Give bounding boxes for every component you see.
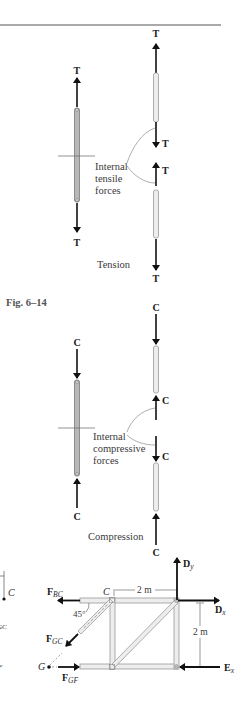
tension-title: Tension xyxy=(97,259,131,270)
left-fragment-sub-gc: GC xyxy=(0,623,7,631)
node-c-label: C xyxy=(103,586,110,597)
angle-arc xyxy=(86,603,89,612)
force-d-x-label: Dx xyxy=(215,604,226,617)
tension-leader-lower xyxy=(127,166,155,183)
height-dim-label: 2 m xyxy=(193,627,208,637)
left-fragment-node-c: C xyxy=(8,587,15,598)
compression-title: Compression xyxy=(88,531,144,542)
tension-label-t4: T xyxy=(153,273,160,284)
tension-label-t1: T xyxy=(153,28,160,39)
compression-internal-line3: forces xyxy=(93,455,119,466)
force-d-y-label: Dy xyxy=(183,558,194,571)
compression-internal-line1: Internal xyxy=(93,431,126,442)
compression-segment-upper: C C xyxy=(153,302,170,420)
compression-whole-member: C C xyxy=(58,337,95,522)
compression-leader-upper xyxy=(127,408,155,432)
member-diagonal xyxy=(112,600,178,667)
compression-diagram: C C C C C C Internal compressive for xyxy=(58,302,169,558)
point-g xyxy=(47,665,51,669)
height-dimension: 2 m xyxy=(193,603,208,666)
left-fragment: C GC F xyxy=(0,571,15,671)
force-f-gc-arrow xyxy=(66,634,78,646)
compression-label-top: C xyxy=(74,337,81,348)
figure-canvas: T T T T T T Internal tensile forc xyxy=(0,0,246,720)
tension-label-t2: T xyxy=(162,138,169,149)
force-f-gf-label: FGF xyxy=(62,672,79,685)
member-bottom-left xyxy=(80,664,113,669)
compression-segment-lower: C C xyxy=(153,436,170,558)
member-vertical-c xyxy=(110,598,115,669)
force-e-x-label: Ex xyxy=(224,662,235,675)
member-bottom xyxy=(112,664,178,669)
force-f-bc-label: FBC xyxy=(47,586,64,599)
tension-internal-line2: tensile xyxy=(95,173,123,184)
member-top xyxy=(112,598,178,603)
compression-label-bottom: C xyxy=(74,511,81,522)
tension-label-t3: T xyxy=(162,165,169,176)
tension-diagram: T T T T T T Internal tensile forc xyxy=(58,28,169,284)
tension-label-bottom: T xyxy=(74,237,81,248)
figure-caption: Fig. 6–14 xyxy=(6,297,48,308)
angle-label: 45° xyxy=(73,609,86,619)
tension-label-top: T xyxy=(74,65,81,76)
textbook-page: T T T T T T Internal tensile forc xyxy=(0,0,246,720)
compression-label-c4: C xyxy=(153,547,160,558)
tension-internal-line1: Internal xyxy=(95,161,128,172)
tension-segment-upper: T T xyxy=(153,28,170,149)
tension-internal-line3: forces xyxy=(95,185,121,196)
compression-label-c2: C xyxy=(162,395,169,406)
member-vertical-d xyxy=(174,598,179,669)
compression-label-c3: C xyxy=(162,451,169,462)
tension-whole-member: T T xyxy=(58,65,95,248)
tension-segment-lower: T T xyxy=(153,163,170,284)
left-fragment-sub-f: F xyxy=(0,663,3,671)
tension-bar xyxy=(75,108,80,202)
compression-label-c1: C xyxy=(153,302,160,313)
width-dim-label: 2 m xyxy=(137,585,152,595)
force-f-gc-label: FGC xyxy=(46,633,64,646)
node-g-label: G xyxy=(38,661,45,672)
truss-members xyxy=(78,598,179,669)
width-dimension: 2 m xyxy=(114,585,177,596)
compression-internal-line2: compressive xyxy=(93,443,146,454)
tension-leader-upper xyxy=(127,128,155,163)
truss-diagram: C GC F C 2 m xyxy=(0,558,235,685)
